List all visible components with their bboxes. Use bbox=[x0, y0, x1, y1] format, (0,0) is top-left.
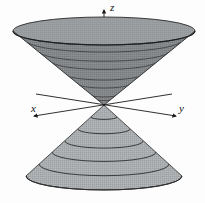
x-axis-label: x bbox=[31, 103, 36, 114]
cone-figure: z x y bbox=[0, 0, 205, 203]
upper-nap-surface bbox=[13, 17, 195, 105]
lower-nap-body bbox=[26, 105, 182, 190]
lower-nap-surface bbox=[26, 105, 182, 190]
y-axis-label: y bbox=[179, 103, 184, 114]
z-axis-label: z bbox=[110, 2, 114, 13]
cone-apex bbox=[103, 104, 105, 106]
